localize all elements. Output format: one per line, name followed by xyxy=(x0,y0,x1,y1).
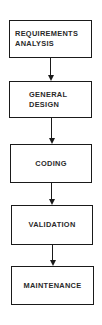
connector-line xyxy=(50,58,51,75)
node-general-design: GENERAL DESIGN xyxy=(9,81,92,118)
node-label-line: DESIGN xyxy=(29,100,59,110)
node-maintenance: MAINTENANCE xyxy=(11,266,94,305)
node-label-line: ANALYSIS xyxy=(15,39,54,49)
connector-line xyxy=(51,183,52,199)
node-validation: VALIDATION xyxy=(11,205,93,245)
node-label-line: MAINTENANCE xyxy=(24,281,82,291)
node-label-line: REQUIREMENTS xyxy=(15,29,78,39)
connector-line xyxy=(52,245,53,260)
node-label-line: VALIDATION xyxy=(28,220,75,230)
node-requirements-analysis: REQUIREMENTS ANALYSIS xyxy=(9,20,92,58)
node-coding: CODING xyxy=(10,144,92,183)
node-label-line: CODING xyxy=(35,159,66,169)
node-label-line: GENERAL xyxy=(29,90,67,100)
connector-line xyxy=(51,118,52,138)
